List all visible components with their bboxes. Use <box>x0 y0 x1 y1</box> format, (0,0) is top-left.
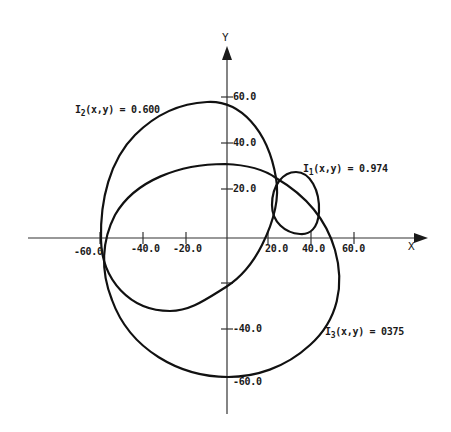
y-axis-arrow-icon <box>222 46 232 60</box>
x-axis-label: X <box>408 240 414 253</box>
label-i2: I2(x,y) = 0.600 <box>75 104 160 115</box>
x-tick-label: 60.0 <box>342 243 365 254</box>
y-axis-label: Y <box>222 31 228 44</box>
x-tick-label: -40.0 <box>131 243 160 254</box>
y-tick-label: 20.0 <box>233 183 256 194</box>
x-tick-label: -60.0 <box>74 246 103 257</box>
y-tick-label: -60.0 <box>233 376 262 387</box>
x-tick-label: 40.0 <box>302 243 325 254</box>
x-tick-label: -20.0 <box>173 243 202 254</box>
label-i3: I3(x,y) = 0375 <box>325 326 404 337</box>
curve-i1 <box>272 172 319 234</box>
x-tick-label: 20.0 <box>265 243 288 254</box>
label-i1: I1(x,y) = 0.974 <box>303 163 388 174</box>
y-tick-label: 60.0 <box>233 91 256 102</box>
curve-i3 <box>104 164 339 377</box>
y-tick-label: 40.0 <box>233 137 256 148</box>
x-axis-arrow-icon <box>414 233 428 243</box>
contour-plot <box>0 0 451 432</box>
curve-i2 <box>101 102 277 311</box>
y-tick-label: -40.0 <box>233 323 262 334</box>
